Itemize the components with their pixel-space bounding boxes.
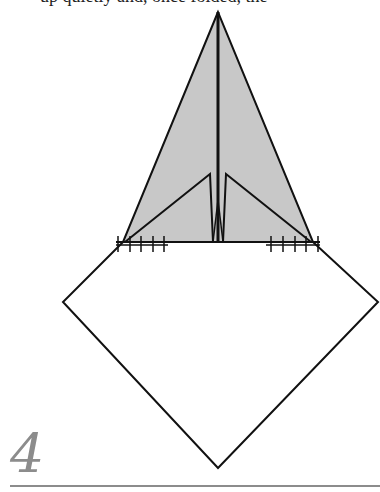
origami-fold-diagram: [0, 0, 380, 492]
divider-rule: [10, 485, 380, 487]
step-number: 4: [10, 428, 44, 482]
paper-diamond: [63, 242, 378, 468]
